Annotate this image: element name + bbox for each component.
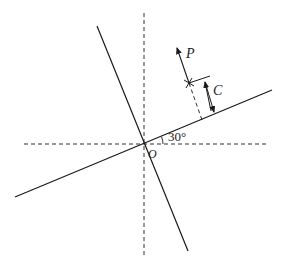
angle-arc: [162, 137, 164, 144]
geometry-diagram: P C 30° O: [0, 0, 282, 264]
distance-label: C: [213, 83, 223, 98]
angle-label: 30°: [168, 129, 186, 144]
dashed-perpendicular: [189, 83, 202, 120]
force-label: P: [185, 46, 195, 61]
origin-label: O: [148, 147, 157, 161]
inclined-axis-30deg: [15, 90, 272, 197]
dimension-extension-line: [189, 76, 210, 83]
